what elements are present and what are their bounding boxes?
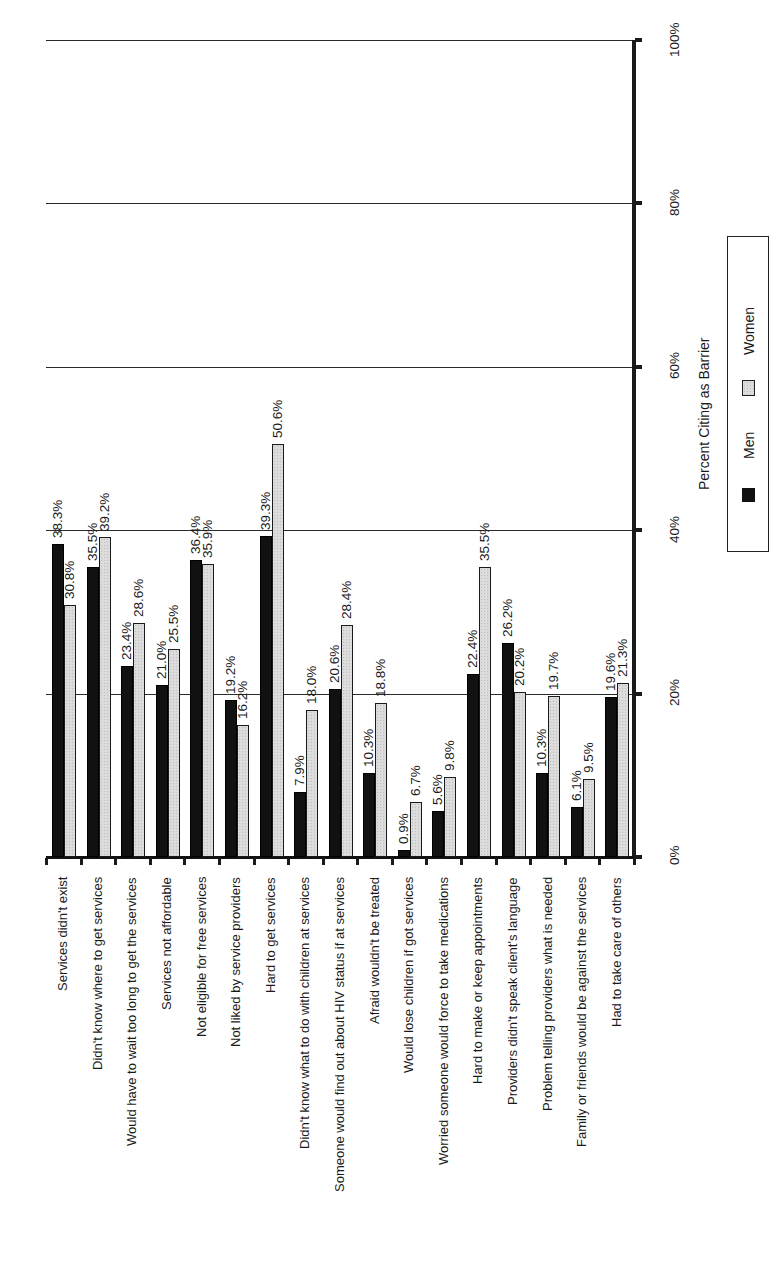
bar-men [225, 700, 237, 857]
bar-women [133, 623, 145, 857]
category-label: Didn't know where to get services [91, 877, 105, 1070]
category-label: Providers didn't speak client's language [506, 877, 520, 1105]
gridline [46, 530, 634, 531]
bar-men [363, 773, 375, 857]
category-tick [391, 858, 394, 865]
axis-title: Percent Citing as Barrier [697, 337, 712, 490]
category-tick [598, 858, 601, 865]
value-label-women: 39.2% [98, 492, 112, 530]
bar-men [605, 697, 617, 857]
value-label-men: 22.4% [466, 630, 480, 668]
category-tick [529, 858, 532, 865]
tick-label: 80% [668, 189, 682, 216]
category-label: Services didn't exist [56, 877, 70, 991]
category-label: Services not affordable [160, 877, 174, 1010]
value-label-women: 18.8% [374, 659, 388, 697]
category-label: Would have to wait too long to get the s… [125, 877, 139, 1146]
category-tick [322, 858, 325, 865]
tick-label: 0% [668, 845, 682, 865]
category-label: Hard to make or keep appointments [471, 877, 485, 1084]
value-label-women: 9.5% [582, 743, 596, 774]
bar-chart: 38.3%30.8%Services didn't exist35.5%39.2… [0, 0, 782, 1265]
value-label-men: 7.9% [293, 756, 307, 787]
value-label-women: 9.8% [443, 740, 457, 771]
axis-tick [635, 528, 642, 532]
legend: Men Women [727, 236, 769, 552]
value-label-women: 25.5% [167, 604, 181, 642]
category-tick [80, 858, 83, 865]
axis-tick [635, 365, 642, 369]
axis-tick [635, 201, 642, 205]
bar-women [168, 649, 180, 857]
bar-women [237, 725, 249, 857]
category-tick [253, 858, 256, 865]
category-label: Afraid wouldn't be treated [368, 877, 382, 1024]
category-label: Family or friends would be against the s… [575, 877, 589, 1147]
bar-women [444, 777, 456, 857]
category-tick [114, 858, 117, 865]
bar-women [375, 703, 387, 857]
value-label-men: 39.3% [259, 492, 273, 530]
value-label-women: 21.3% [616, 639, 630, 677]
bar-women [583, 779, 595, 857]
value-label-men: 10.3% [362, 729, 376, 767]
category-label: Hard to get services [264, 877, 278, 993]
value-label-women: 50.6% [271, 399, 285, 437]
value-label-men: 20.6% [328, 644, 342, 682]
category-tick [495, 858, 498, 865]
bar-men [260, 536, 272, 857]
bar-women [514, 692, 526, 857]
value-axis-line [632, 40, 636, 859]
category-label: Not liked by service providers [229, 877, 243, 1047]
tick-label: 100% [668, 22, 682, 57]
bar-women [548, 696, 560, 857]
gridline [46, 367, 634, 368]
category-label: Had to take care of others [610, 877, 624, 1027]
bar-men [121, 666, 133, 857]
bar-women [341, 625, 353, 857]
bar-men [294, 792, 306, 857]
bar-women [99, 537, 111, 857]
value-label-women: 35.9% [201, 519, 215, 557]
axis-tick [635, 38, 642, 42]
value-label-men: 5.6% [431, 774, 445, 805]
category-label: Not eligible for free services [195, 877, 209, 1037]
value-label-women: 30.8% [63, 561, 77, 599]
tick-label: 20% [668, 679, 682, 706]
category-label: Problem telling providers what is needed [541, 877, 555, 1111]
gridline [46, 203, 634, 204]
value-label-women: 19.7% [547, 652, 561, 690]
bar-women [479, 567, 491, 857]
value-label-men: 6.1% [570, 770, 584, 801]
bar-men [87, 567, 99, 857]
bar-men [432, 811, 444, 857]
value-label-men: 23.4% [120, 622, 134, 660]
bar-women [272, 444, 284, 857]
category-tick [149, 858, 152, 865]
category-label: Worried someone would force to take medi… [437, 877, 451, 1165]
value-label-women: 35.5% [478, 523, 492, 561]
category-tick [425, 858, 428, 865]
value-label-men: 38.3% [51, 500, 65, 538]
legend-label-women: Women [742, 307, 757, 355]
bar-men [190, 560, 202, 857]
value-label-women: 6.7% [409, 765, 423, 796]
legend-swatch-women [742, 380, 755, 396]
category-tick [287, 858, 290, 865]
value-label-men: 26.2% [501, 599, 515, 637]
category-tick [45, 858, 48, 865]
bar-men [467, 674, 479, 857]
value-label-women: 28.4% [340, 581, 354, 619]
legend-swatch-men [742, 488, 755, 502]
value-label-women: 28.6% [132, 579, 146, 617]
category-tick [183, 858, 186, 865]
bar-women [202, 564, 214, 857]
tick-label: 60% [668, 352, 682, 379]
category-label: Didn't know what to do with children at … [298, 877, 312, 1149]
axis-tick [635, 855, 642, 859]
category-tick [633, 858, 636, 865]
bar-women [617, 683, 629, 857]
axis-tick [635, 692, 642, 696]
bar-men [398, 850, 410, 857]
bar-women [306, 710, 318, 857]
